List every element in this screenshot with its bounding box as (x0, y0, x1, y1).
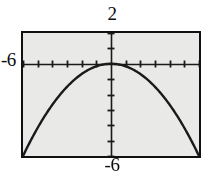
graphing-calculator-figure: 2 -6 -6 (0, 0, 210, 178)
window-label-ymin: -6 (0, 155, 210, 174)
calculator-screen (21, 31, 201, 158)
parabola-plot-canvas (23, 33, 199, 156)
window-label-xmin: -6 (1, 50, 16, 69)
window-label-ymax: 2 (0, 4, 210, 23)
